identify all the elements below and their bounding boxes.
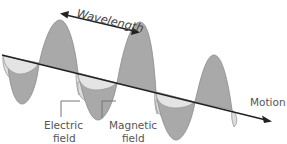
magnetic-field-label-line1: Magnetic xyxy=(109,119,157,131)
electric-field-label-line1: Electric xyxy=(44,119,83,131)
magnetic-field-label-line2: field xyxy=(122,132,145,144)
motion-arrowhead-icon xyxy=(262,116,272,124)
electric-field-label-line2: field xyxy=(53,132,76,144)
em-wave-diagram: Wavelength Electric field Magnetic field… xyxy=(0,0,287,144)
arrow-left-icon xyxy=(60,11,69,19)
motion-label: Motion xyxy=(250,96,286,108)
wavelength-label: Wavelength xyxy=(75,6,145,35)
